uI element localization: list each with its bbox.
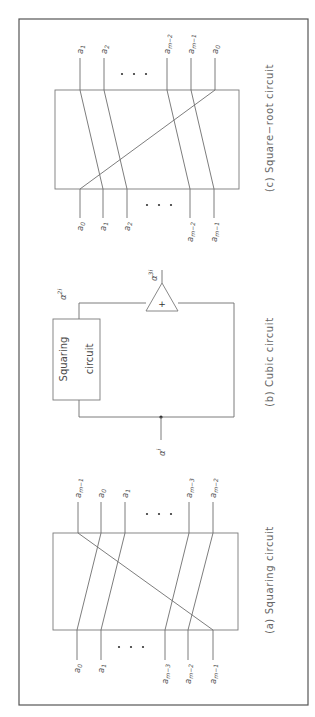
ellipsis-dot (146, 204, 148, 206)
circuit-figure: a1 a2 am−2 am−1 a0 a0 a1 a2 am−2 am−1 (c… (0, 0, 315, 717)
ellipsis-dot (170, 513, 172, 515)
ellipsis-dot (145, 73, 147, 75)
panel-square-root-circuit: a1 a2 am−2 am−1 a0 a0 a1 a2 am−2 am−1 (c… (55, 34, 275, 242)
input-label: am−1 (209, 222, 220, 242)
panel-cubic-circuit: Squaring circuit + αi α2i α3i (b) Cubic … (53, 270, 275, 456)
input-label: a0 (72, 664, 83, 673)
input-label: a1 (96, 664, 107, 673)
input-label: a1 (98, 222, 109, 231)
output-label: am−3 (184, 478, 195, 498)
input-label: am−3 (160, 664, 171, 684)
alpha-2i-label: α2i (56, 289, 68, 300)
output-label: a2 (99, 45, 110, 54)
ellipsis-dot (121, 73, 123, 75)
adder-plus-icon: + (158, 299, 166, 309)
ellipsis-dot (133, 73, 135, 75)
input-label: a2 (122, 222, 133, 231)
ellipsis-dot (118, 646, 120, 648)
output-label: am−2 (208, 478, 219, 498)
ellipsis-dot (158, 204, 160, 206)
input-label: am−1 (208, 664, 219, 684)
output-label: am−2 (162, 34, 173, 54)
output-label: a1 (120, 489, 131, 498)
ellipsis-dot (142, 646, 144, 648)
output-label: am−1 (186, 34, 197, 54)
output-label: am−1 (73, 478, 84, 498)
ellipsis-dot (158, 513, 160, 515)
input-label: am−2 (185, 222, 196, 242)
output-label: a1 (75, 45, 86, 54)
input-label: a0 (75, 222, 86, 231)
caption-squaring-circuit: (a) Squaring circuit (264, 526, 275, 634)
squaring-block-label-line1: Squaring (58, 337, 69, 382)
squaring-block-label-line2: circuit (84, 344, 95, 375)
ellipsis-dot (146, 513, 148, 515)
output-label: a0 (210, 45, 221, 54)
input-label: am−2 (183, 664, 194, 684)
output-alpha-3i-label: α3i (147, 270, 159, 281)
output-label: a0 (96, 489, 107, 498)
caption-square-root-circuit: (c) Square−root circuit (264, 64, 275, 192)
ellipsis-dot (130, 646, 132, 648)
ellipsis-dot (170, 204, 172, 206)
caption-cubic-circuit: (b) Cubic circuit (264, 317, 275, 406)
panel-squaring-circuit: am−1 a0 a1 am−3 am−2 a0 a1 am−3 am−2 am−… (53, 478, 275, 684)
input-alpha-i-label: αi (155, 448, 167, 456)
